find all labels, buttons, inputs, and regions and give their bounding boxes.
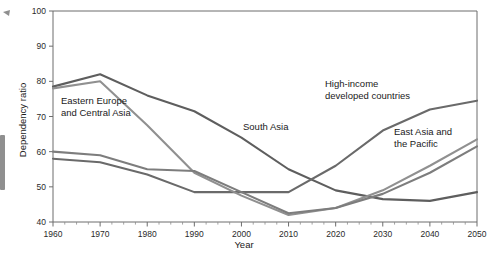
y-tick-label-60: 60 bbox=[37, 147, 47, 157]
x-tick-label-2000: 2000 bbox=[232, 229, 251, 239]
x-tick-label-2020: 2020 bbox=[326, 229, 345, 239]
x-tick-label-1980: 1980 bbox=[138, 229, 157, 239]
x-tick-label-2040: 2040 bbox=[420, 229, 439, 239]
y-axis-title: Dependency ratio bbox=[17, 83, 28, 157]
y-tick-label-90: 90 bbox=[37, 41, 47, 51]
x-tick-label-2010: 2010 bbox=[279, 229, 298, 239]
series-label-line: developed countries bbox=[325, 90, 410, 101]
series-label-line: the Pacific bbox=[394, 138, 438, 149]
y-tick-label-70: 70 bbox=[37, 112, 47, 122]
series-label-line: High-income bbox=[325, 78, 378, 89]
y-tick-label-80: 80 bbox=[37, 76, 47, 86]
x-tick-label-1970: 1970 bbox=[91, 229, 110, 239]
series-label-line: South Asia bbox=[243, 121, 289, 132]
x-axis-title: Year bbox=[234, 239, 253, 250]
x-tick-label-2030: 2030 bbox=[373, 229, 392, 239]
left-edge-mark bbox=[0, 135, 5, 190]
x-tick-label-1990: 1990 bbox=[185, 229, 204, 239]
x-tick-label-1960: 1960 bbox=[44, 229, 63, 239]
series-label-line: and Central Asia bbox=[61, 107, 131, 118]
series-label-south-asia: South Asia bbox=[243, 121, 289, 132]
series-label-eastern-europe-and-central-asia: Eastern Europeand Central Asia bbox=[61, 95, 131, 118]
chart-canvas: 405060708090100 196019701980199020002010… bbox=[0, 0, 488, 260]
y-tick-label-50: 50 bbox=[37, 182, 47, 192]
y-tick-label-100: 100 bbox=[32, 6, 46, 16]
y-tick-label-40: 40 bbox=[37, 217, 47, 227]
x-tick-label-2050: 2050 bbox=[468, 229, 487, 239]
dependency-ratio-line-chart: 405060708090100 196019701980199020002010… bbox=[0, 0, 488, 260]
series-label-line: Eastern Europe bbox=[61, 95, 127, 106]
series-label-line: East Asia and bbox=[394, 126, 452, 137]
